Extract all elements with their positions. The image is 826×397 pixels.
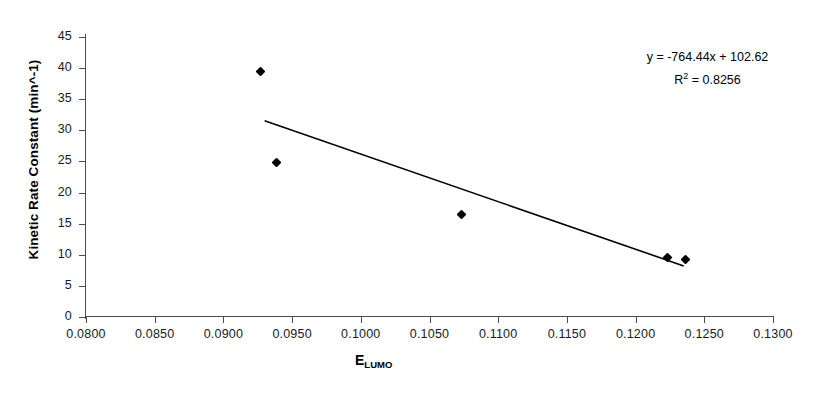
y-tick-mark xyxy=(79,317,85,318)
x-tick-mark xyxy=(567,317,568,323)
x-tick-mark xyxy=(498,317,499,323)
y-tick-mark xyxy=(79,161,85,162)
scatter-chart-figure: 051015202530354045 0.08000.08500.09000.0… xyxy=(0,0,826,397)
y-tick-mark xyxy=(79,224,85,225)
r-squared-number: = 0.8256 xyxy=(688,73,740,87)
y-tick-mark xyxy=(79,130,85,131)
x-axis-title: ELUMO xyxy=(355,352,392,368)
regression-equation: y = -764.44x + 102.62 xyxy=(600,48,815,67)
y-axis-line xyxy=(85,34,86,319)
y-axis-title: Kinetic Rate Constant (min^-1) xyxy=(26,10,41,310)
y-tick-mark xyxy=(79,286,85,287)
x-tick-mark xyxy=(155,317,156,323)
y-tick-mark xyxy=(79,193,85,194)
x-tick-mark xyxy=(86,317,87,323)
y-tick-mark xyxy=(79,99,85,100)
x-tick-mark xyxy=(773,317,774,323)
x-tick-mark xyxy=(292,317,293,323)
x-tick-label: 0.1300 xyxy=(733,327,813,341)
x-tick-mark xyxy=(223,317,224,323)
x-tick-mark xyxy=(361,317,362,323)
x-tick-mark xyxy=(704,317,705,323)
y-tick-mark xyxy=(79,255,85,256)
r-squared-label: R xyxy=(674,73,683,87)
x-axis-title-base: E xyxy=(355,352,364,368)
y-tick-mark xyxy=(79,68,85,69)
x-tick-mark xyxy=(430,317,431,323)
trendline-annotation: y = -764.44x + 102.62 R2 = 0.8256 xyxy=(600,48,815,90)
y-tick-mark xyxy=(79,37,85,38)
x-axis-title-subscript: LUMO xyxy=(364,359,392,370)
x-tick-mark xyxy=(636,317,637,323)
y-tick-label: 0 xyxy=(0,309,72,323)
r-squared-value: R2 = 0.8256 xyxy=(600,67,815,90)
